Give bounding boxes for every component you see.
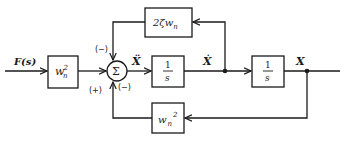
accel-label: Ẍ: [131, 54, 141, 68]
sum-sign-bottom: (−): [118, 83, 131, 92]
velocity-branch-dot: [223, 69, 228, 74]
integrator1-denominator: s: [165, 73, 170, 83]
velocity-label: Ẋ: [202, 54, 212, 68]
position-feedback-line: [185, 71, 307, 118]
stiffness-feedback-label: wn2: [158, 111, 178, 128]
sum-sign-left: (+): [89, 86, 102, 95]
position-branch-dot: [305, 69, 310, 74]
input-label: F(s): [13, 56, 36, 67]
input-gain-label: w2n: [55, 64, 68, 80]
sum-symbol: Σ: [112, 65, 120, 78]
damping-feedback-label: 2ζwn: [152, 17, 178, 31]
integrator2-numerator: 1: [265, 60, 271, 70]
sum-sign-top: (−): [95, 45, 108, 54]
stiffness-feedback-block: [152, 103, 184, 133]
integrator1-numerator: 1: [165, 60, 171, 70]
position-label: X: [295, 55, 305, 68]
integrator2-denominator: s: [265, 73, 270, 83]
block-diagram: F(s) w2n Σ (−) (+) (−) Ẍ Ẋ X 1 s 1 s 2ζw…: [0, 0, 344, 141]
